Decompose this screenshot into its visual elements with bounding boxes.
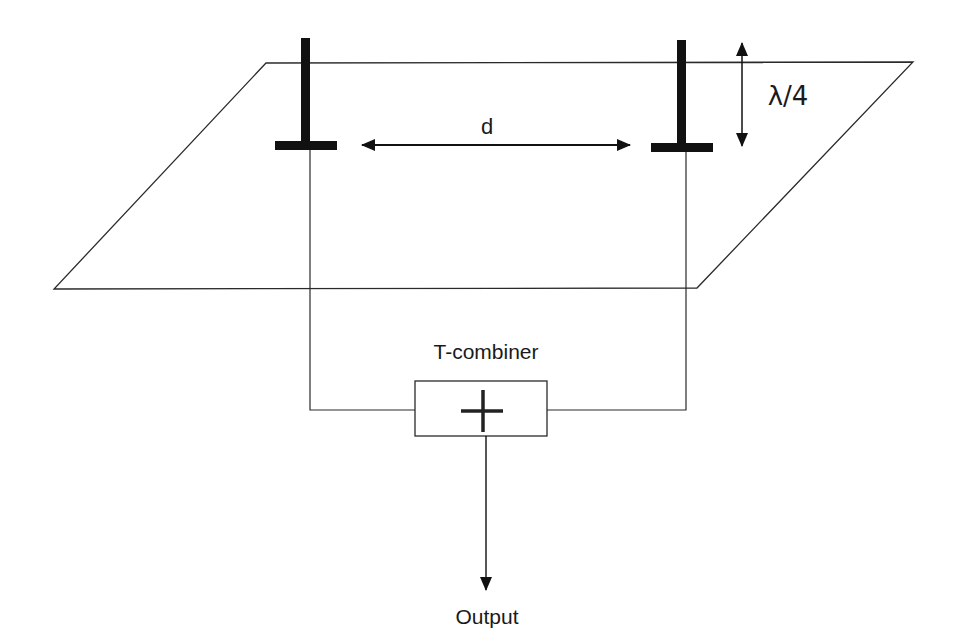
- antenna-right-base: [651, 143, 713, 152]
- spacing-label: d: [481, 116, 493, 138]
- feed-wire-right: [547, 151, 686, 410]
- antenna-left-base: [275, 141, 337, 150]
- antenna-left-element: [301, 38, 310, 146]
- output-label: Output: [455, 606, 518, 627]
- t-combiner-box: [415, 381, 547, 436]
- antenna-left: [275, 38, 337, 150]
- antenna-right: [651, 40, 713, 152]
- height-label: λ/4: [768, 83, 809, 109]
- t-combiner-label: T-combiner: [433, 341, 538, 362]
- antenna-right-element: [677, 40, 686, 147]
- antenna-array-diagram: [0, 0, 964, 644]
- feed-wire-left: [310, 150, 415, 410]
